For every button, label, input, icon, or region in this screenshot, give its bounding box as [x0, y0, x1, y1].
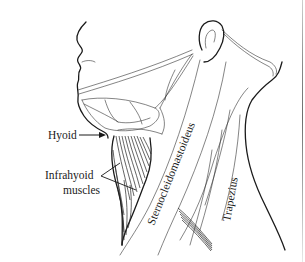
hyoid-arrow	[79, 132, 106, 138]
ear-inner	[205, 30, 215, 48]
posterior-belly-line	[160, 108, 164, 134]
trapezius-fiber-2	[200, 130, 222, 230]
jawline-lower	[79, 54, 193, 94]
infrahyoid-muscle-mass	[112, 136, 151, 245]
infrahyoid-label-line1: Infrahyoid	[45, 169, 94, 182]
occipital-line-2	[224, 34, 273, 76]
hyoid-label: Hyoid	[48, 129, 77, 142]
nape-outline	[245, 62, 285, 250]
trapezius-label: Trapezius	[220, 175, 241, 222]
trapezius-front-edge	[180, 88, 248, 240]
suprahyoid-line-1	[130, 102, 142, 124]
lip-detail	[82, 61, 95, 63]
neck-anatomy-illustration: Hyoid Infrahyoid muscles Sternocleidomas…	[0, 0, 305, 262]
mylohyoid-line	[105, 100, 118, 122]
hyoid-crossline	[118, 129, 162, 134]
sternocleidomastoideus-label: Sternocleidomastoideus	[145, 120, 197, 227]
ear-outline	[199, 21, 224, 62]
digastric-line	[84, 104, 150, 123]
occipital-line-1	[222, 30, 277, 74]
clavicle-band	[178, 208, 212, 251]
face-profile	[77, 22, 108, 138]
infrahyoid-label-line2: muscles	[63, 184, 101, 196]
